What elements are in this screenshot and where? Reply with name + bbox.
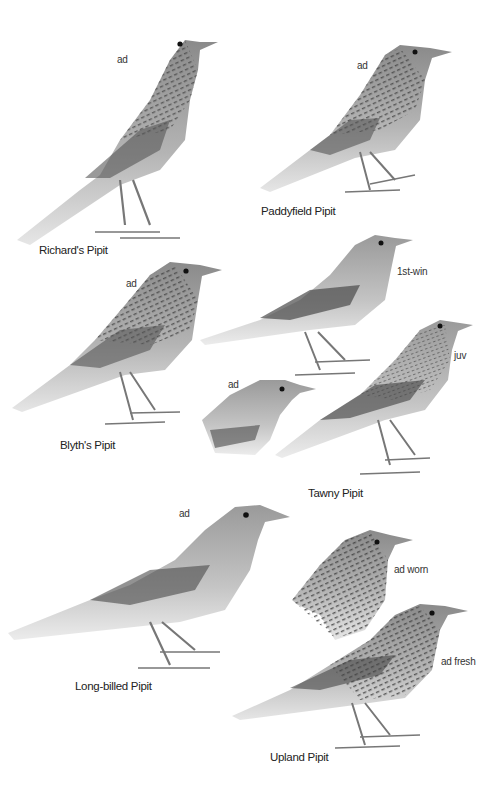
bird-blyths-pipit-ad: [12, 262, 222, 424]
species-name-long-billed-pipit: Long-billed Pipit: [75, 680, 152, 692]
bird-richards-pipit-ad: [17, 40, 218, 245]
age-label-blyths-ad: ad: [126, 278, 137, 289]
age-label-tawny-juv: juv: [454, 350, 466, 361]
species-name-tawny-pipit: Tawny Pipit: [308, 487, 363, 499]
bird-illustrations: [0, 0, 501, 787]
age-label-tawny-ad: ad: [228, 379, 239, 390]
age-label-tawny-1st-win: 1st-win: [397, 266, 427, 277]
bird-tawny-pipit-juv: [275, 320, 473, 474]
bird-long-billed-pipit-ad: [8, 505, 290, 668]
age-label-long-billed-ad: ad: [179, 508, 190, 519]
bird-tawny-pipit-1st-win: [200, 235, 413, 375]
illustration-plate: ad ad ad 1st-win juv ad ad ad worn ad fr…: [0, 0, 501, 787]
species-name-upland-pipit: Upland Pipit: [270, 751, 328, 763]
species-name-paddyfield-pipit: Paddyfield Pipit: [261, 205, 335, 217]
age-label-upland-ad-worn: ad worn: [394, 564, 428, 575]
bird-paddyfield-pipit-ad: [260, 45, 452, 192]
age-label-paddyfield-ad: ad: [357, 60, 368, 71]
species-name-richards-pipit: Richard's Pipit: [39, 244, 108, 256]
age-label-richards-ad: ad: [117, 54, 128, 65]
species-name-blyths-pipit: Blyth's Pipit: [60, 439, 115, 451]
age-label-upland-ad-fresh: ad fresh: [441, 656, 476, 667]
